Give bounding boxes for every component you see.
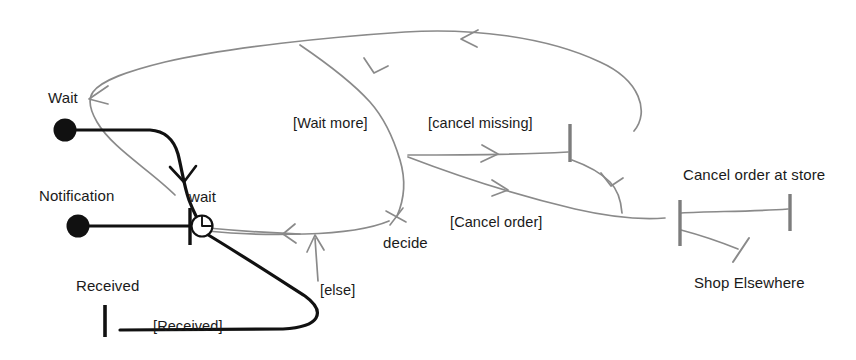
node-label-received: Received xyxy=(76,278,139,293)
node-label-shop-elsewhere: Shop Elsewhere xyxy=(694,275,805,290)
edge-cancel-order xyxy=(408,157,665,219)
initial-node-wait xyxy=(54,119,77,142)
edge-label-cancel-order: [Cancel order] xyxy=(450,215,542,230)
arrowhead-loop-branch xyxy=(364,58,388,73)
edge-decide-back xyxy=(207,221,389,234)
node-label-wait-timer: wait xyxy=(189,189,216,204)
diagram-canvas: Wait Notification Received wait decide C… xyxy=(0,0,856,360)
edge-label-else: [else] xyxy=(320,283,355,298)
node-label-wait: Wait xyxy=(48,90,78,105)
edge-else xyxy=(315,238,318,281)
edge-cancel-order-at-store xyxy=(681,209,788,213)
node-label-decide: decide xyxy=(383,235,428,250)
node-label-notification: Notification xyxy=(39,188,114,203)
decide-cross-marker xyxy=(386,208,406,225)
edge-label-cancel-missing: [cancel missing] xyxy=(428,116,533,131)
edge-shop-elsewhere xyxy=(681,230,738,249)
initial-node-notification xyxy=(67,215,90,238)
arrowhead-cancel-missing xyxy=(481,145,498,162)
node-label-cancel-order-at-store: Cancel order at store xyxy=(683,167,825,182)
edge-label-received-guard: [Received] xyxy=(153,319,223,334)
edge-timer-to-received-join xyxy=(120,233,318,330)
secondary-flow-group xyxy=(89,30,788,281)
end-tick-shop-elsewhere xyxy=(733,238,749,262)
edge-cancel-missing-stem xyxy=(572,160,622,213)
activity-bars-group xyxy=(570,124,790,246)
edge-label-wait-more: [Wait more] xyxy=(293,116,368,131)
edge-cancel-missing xyxy=(408,152,568,155)
initial-nodes-group xyxy=(54,119,90,238)
